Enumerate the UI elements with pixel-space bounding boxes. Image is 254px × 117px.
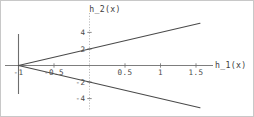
x-tick-label-1.5: 1.5 <box>189 68 204 77</box>
y-tick-label-4: 4 <box>81 28 86 37</box>
y-tick-label-2: 2 <box>81 45 86 54</box>
series-upper-branch <box>19 23 201 65</box>
plot-canvas: -1 -0.5 0.5 1 1.5 4 2 -2 -4 h_2(x) h_1(x… <box>1 1 254 117</box>
x-tick-label--0.5: -0.5 <box>44 68 64 77</box>
x-tick-label-0.5: 0.5 <box>118 68 133 77</box>
plot-figure: -1 -0.5 0.5 1 1.5 4 2 -2 -4 h_2(x) h_1(x… <box>0 0 254 117</box>
x-tick-label--1: -1 <box>14 68 24 77</box>
x-tick-label-1: 1 <box>158 68 163 77</box>
y-tick-label--2: -2 <box>76 78 86 87</box>
x-axis-title: h_1(x) <box>215 60 246 70</box>
y-axis-title: h_2(x) <box>89 4 120 14</box>
y-tick-label--4: -4 <box>76 94 86 103</box>
